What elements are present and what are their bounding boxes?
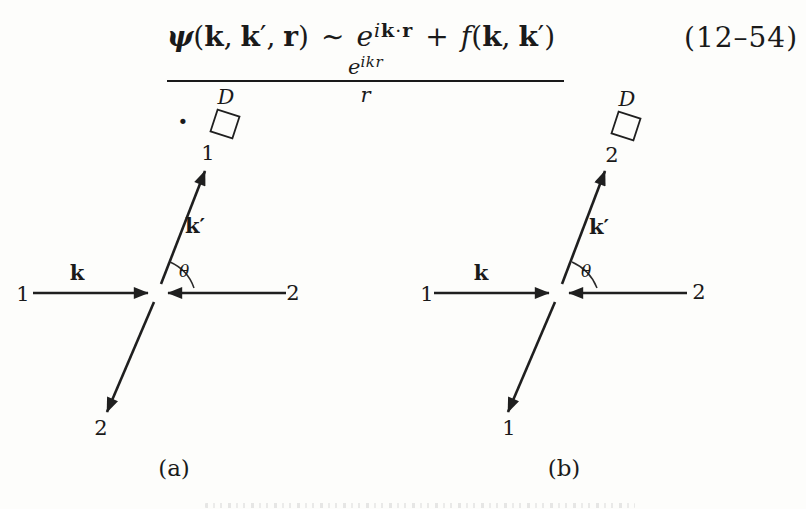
diagram-b: D 2 k′ θ 1 k 2 1 (b) xyxy=(420,87,705,481)
k-prime-label: k′ xyxy=(589,214,610,239)
cropped-caption-top-edge xyxy=(205,503,635,508)
outgoing-bottom-particle-label: 1 xyxy=(502,416,515,440)
outgoing-bottom-particle-label: 2 xyxy=(94,416,107,440)
k-label: k xyxy=(70,260,85,285)
diagram-a: D 1 k′ θ 1 k 2 2 (a) xyxy=(16,85,299,481)
incoming-right-particle-label: 2 xyxy=(692,280,705,304)
theta-label: θ xyxy=(179,261,189,281)
incoming-right-particle-label: 2 xyxy=(286,281,299,305)
caption-a: (a) xyxy=(158,455,190,481)
k-label: k xyxy=(474,260,489,285)
detector-box-a xyxy=(211,110,240,139)
outgoing-top-particle-label: 1 xyxy=(201,141,214,165)
detector-label: D xyxy=(618,87,636,111)
k-prime-label: k′ xyxy=(185,213,206,238)
detector-box-b xyxy=(612,112,641,141)
book-page: ψ(k,k′,r)∼eik·r+f(k,k′)eikrr· (12–54) D … xyxy=(0,0,806,509)
caption-b: (b) xyxy=(548,455,581,481)
incoming-left-particle-label: 1 xyxy=(420,282,433,306)
incoming-left-particle-label: 1 xyxy=(16,282,29,306)
scattered-down-arrow-a xyxy=(107,302,154,412)
scattering-diagrams: D 1 k′ θ 1 k 2 2 (a) D 2 k′ θ 1 k 2 1 ( xyxy=(0,0,806,509)
scattered-down-arrow-b xyxy=(508,302,555,412)
theta-label: θ xyxy=(581,261,591,281)
outgoing-top-particle-label: 2 xyxy=(605,143,618,167)
detector-label: D xyxy=(217,85,235,109)
